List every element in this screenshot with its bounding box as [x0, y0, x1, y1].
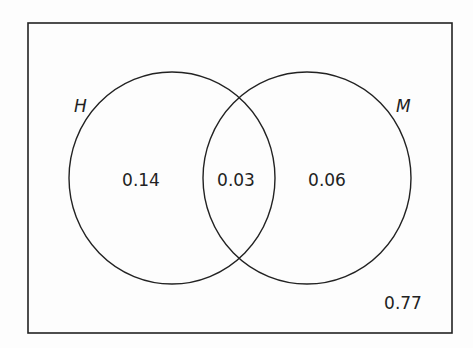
region-intersection: 0.03 — [217, 170, 255, 190]
set-label-m: M — [396, 96, 411, 116]
region-m-only: 0.06 — [308, 170, 346, 190]
region-outside: 0.77 — [384, 293, 422, 313]
region-h-only: 0.14 — [122, 170, 160, 190]
set-label-h: H — [74, 96, 87, 116]
venn-diagram: H M 0.14 0.03 0.06 0.77 — [0, 0, 473, 348]
